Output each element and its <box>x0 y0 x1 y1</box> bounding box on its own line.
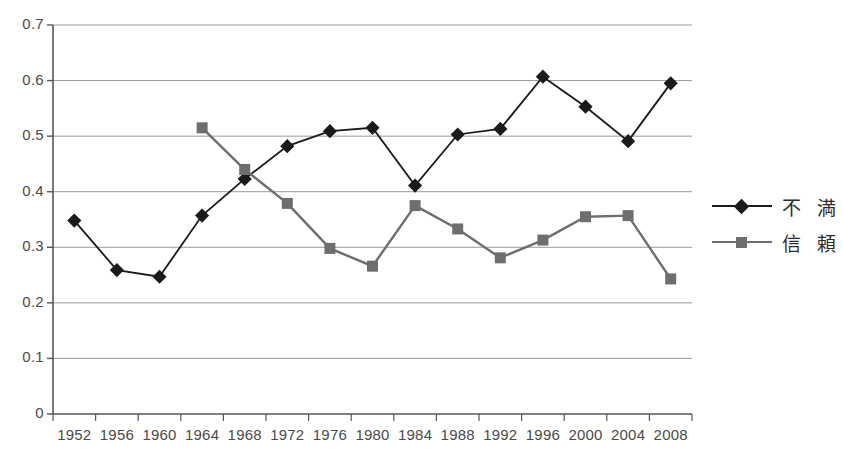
legend-item-trust: 信 頼 <box>712 224 843 260</box>
y-axis-ticks <box>47 25 53 414</box>
y-axis-tick-label: 0.3 <box>0 237 44 254</box>
data-point-square <box>537 235 548 246</box>
x-axis-tick-label: 1964 <box>179 426 225 443</box>
data-point-square <box>495 252 506 263</box>
x-axis-tick-label: 1992 <box>477 426 523 443</box>
legend-key-diamond <box>712 197 772 215</box>
square-marker-icon <box>736 237 747 248</box>
x-axis-tick-label: 1988 <box>435 426 481 443</box>
data-point-diamond <box>280 139 294 153</box>
series-line <box>202 128 671 279</box>
data-point-square <box>197 122 208 133</box>
data-point-diamond <box>664 76 678 90</box>
data-point-square <box>324 243 335 254</box>
data-point-square <box>580 211 591 222</box>
x-axis-ticks <box>53 414 692 421</box>
x-axis-tick-label: 1996 <box>520 426 566 443</box>
y-axis-tick-label: 0.6 <box>0 71 44 88</box>
gridlines <box>53 25 692 358</box>
x-axis-tick-label: 2004 <box>605 426 651 443</box>
x-axis-tick-label: 1984 <box>392 426 438 443</box>
series-layer <box>67 70 678 285</box>
x-axis-tick-label: 1972 <box>264 426 310 443</box>
y-axis-tick-label: 0 <box>0 404 44 421</box>
legend-item-dissatisfaction: 不 満 <box>712 188 843 224</box>
y-axis-tick-label: 0.2 <box>0 293 44 310</box>
y-axis-tick-label: 0.5 <box>0 126 44 143</box>
data-point-square <box>665 273 676 284</box>
x-axis-tick-label: 1952 <box>51 426 97 443</box>
legend-label-dissatisfaction: 不 満 <box>782 193 841 220</box>
y-axis-tick-label: 0.7 <box>0 15 44 32</box>
x-axis-tick-label: 2008 <box>648 426 694 443</box>
x-axis-tick-label: 1980 <box>350 426 396 443</box>
y-axis-tick-label: 0.1 <box>0 348 44 365</box>
y-axis-tick-label: 0.4 <box>0 182 44 199</box>
data-point-square <box>452 223 463 234</box>
data-point-square <box>282 198 293 209</box>
diamond-marker-icon <box>734 199 750 215</box>
x-axis-tick-label: 1976 <box>307 426 353 443</box>
data-point-diamond <box>152 270 166 284</box>
data-point-diamond <box>365 121 379 135</box>
legend-key-square <box>712 233 772 251</box>
chart-legend: 不 満 信 頼 <box>712 188 843 260</box>
data-point-square <box>367 261 378 272</box>
x-axis-tick-label: 2000 <box>563 426 609 443</box>
x-axis-tick-label: 1968 <box>222 426 268 443</box>
data-point-square <box>239 164 250 175</box>
x-axis-tick-label: 1960 <box>137 426 183 443</box>
legend-label-trust: 信 頼 <box>782 229 841 256</box>
line-chart: 00.10.20.30.40.50.60.7 19521956196019641… <box>0 0 843 463</box>
data-point-square <box>410 200 421 211</box>
data-point-square <box>623 210 634 221</box>
x-axis-tick-label: 1956 <box>94 426 140 443</box>
